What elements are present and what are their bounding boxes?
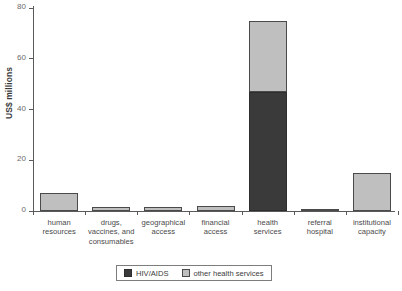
x-tick-mark bbox=[189, 211, 190, 215]
legend-label: HIV/AIDS bbox=[136, 269, 169, 278]
bar-chart: US$ millions 020406080 human resourcesdr… bbox=[0, 0, 402, 291]
x-tick-mark bbox=[398, 211, 399, 215]
x-axis-line bbox=[33, 211, 395, 212]
y-tick-label: 60 bbox=[17, 53, 26, 62]
x-tick-mark bbox=[242, 211, 243, 215]
bar-segment bbox=[249, 92, 287, 211]
bar bbox=[197, 206, 235, 211]
x-axis-label: human resources bbox=[33, 218, 85, 237]
bar-segment bbox=[353, 173, 391, 211]
x-tick-mark bbox=[85, 211, 86, 215]
bar bbox=[353, 173, 391, 211]
y-tick-label: 0 bbox=[22, 205, 26, 214]
bar-segment bbox=[144, 207, 182, 211]
x-tick-mark bbox=[137, 211, 138, 215]
legend-label: other health services bbox=[194, 269, 264, 278]
bar bbox=[40, 193, 78, 211]
y-tick-label: 40 bbox=[17, 104, 26, 113]
bar-segment bbox=[197, 206, 235, 211]
bar bbox=[301, 210, 339, 211]
x-axis-label: financial access bbox=[189, 218, 241, 237]
y-tick-label: 80 bbox=[17, 2, 26, 11]
x-axis-label: health services bbox=[242, 218, 294, 237]
chart-legend: HIV/AIDSother health services bbox=[116, 265, 272, 281]
x-axis-label: institutional capacity bbox=[346, 218, 398, 237]
y-axis-title: US$ millions bbox=[4, 43, 14, 143]
legend-swatch-icon bbox=[182, 269, 190, 277]
y-tick-label: 20 bbox=[17, 154, 26, 163]
x-axis-label: geographical access bbox=[137, 218, 189, 237]
x-axis-labels: human resourcesdrugs, vaccines, and cons… bbox=[33, 218, 398, 258]
bar bbox=[92, 207, 130, 211]
bar bbox=[249, 21, 287, 211]
bar bbox=[144, 207, 182, 211]
x-axis-label: drugs, vaccines, and consumables bbox=[85, 218, 137, 246]
x-tick-mark bbox=[33, 211, 34, 215]
bar-segment bbox=[301, 209, 339, 211]
legend-swatch-icon bbox=[124, 269, 132, 277]
legend-item: other health services bbox=[182, 269, 264, 278]
x-tick-mark bbox=[346, 211, 347, 215]
bars-layer bbox=[33, 8, 398, 211]
x-axis-label: referral hospital bbox=[294, 218, 346, 237]
x-tick-mark bbox=[294, 211, 295, 215]
bar-segment bbox=[249, 21, 287, 92]
bar-segment bbox=[92, 207, 130, 211]
legend-item: HIV/AIDS bbox=[124, 269, 169, 278]
bar-segment bbox=[40, 193, 78, 211]
